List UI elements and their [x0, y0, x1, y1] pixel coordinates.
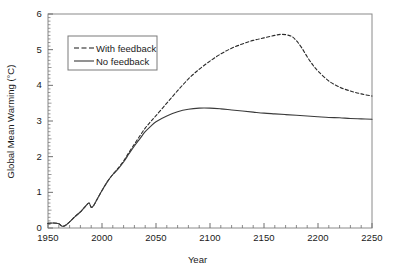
y-tick-label: 5 [30, 44, 42, 55]
y-tick-label: 0 [30, 222, 42, 233]
caption-fragment [0, 272, 395, 278]
x-axis-title: Year [0, 254, 395, 265]
series-line-no-feedback [48, 108, 372, 226]
y-axis-title-text: Global Mean Warming (°C) [6, 64, 17, 178]
legend-label-no-feedback: No feedback [96, 56, 149, 67]
x-tick-label: 2050 [143, 232, 169, 243]
x-tick-label: 2100 [197, 232, 223, 243]
x-tick-label: 2150 [251, 232, 277, 243]
y-tick-label: 6 [30, 8, 42, 19]
y-axis-title: Global Mean Warming (°C) [2, 14, 20, 228]
x-tick-label: 1950 [35, 232, 61, 243]
legend-label-with-feedback: With feedback [96, 43, 156, 54]
x-tick-label: 2250 [359, 232, 385, 243]
y-tick-label: 2 [30, 151, 42, 162]
x-tick-label: 2200 [305, 232, 331, 243]
figure-container: Global Mean Warming (°C) Year 1950200020… [0, 0, 395, 278]
y-tick-label: 4 [30, 79, 42, 90]
y-tick-label: 3 [30, 115, 42, 126]
x-tick-label: 2000 [89, 232, 115, 243]
y-tick-label: 1 [30, 186, 42, 197]
